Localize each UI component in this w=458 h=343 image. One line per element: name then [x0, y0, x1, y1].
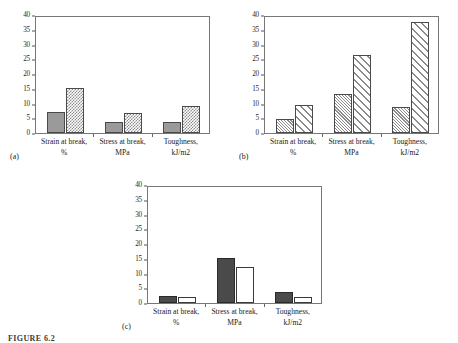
bar	[217, 258, 235, 303]
y-tick-label: 15	[23, 86, 30, 93]
x-tick-mark	[93, 134, 94, 137]
bar	[105, 122, 123, 133]
figure-caption: FIGURE 6.2	[8, 334, 55, 343]
bar	[392, 107, 410, 133]
y-tick-label: 5	[256, 116, 259, 123]
category-label-line2: kJ/m2	[373, 148, 447, 159]
y-tick-label: 5	[27, 116, 30, 123]
y-tick-label: 15	[135, 256, 142, 263]
x-tick-mark	[205, 304, 206, 307]
bar	[178, 297, 196, 303]
bar	[236, 267, 254, 303]
x-tick-mark	[264, 304, 265, 307]
y-axis-b: 0510152025303540	[237, 16, 263, 134]
y-tick-label: 40	[23, 12, 30, 19]
y-tick-label: 40	[135, 182, 142, 189]
bar	[334, 94, 352, 133]
chart-panel-a: 0510152025303540 Strain at break,%Stress…	[0, 2, 229, 174]
panel-letter-b: (b)	[239, 152, 248, 161]
category-label-line1: Stress at break,	[99, 137, 145, 146]
y-tick-label: 30	[135, 212, 142, 219]
category-label-line1: Toughness,	[393, 137, 427, 146]
bar	[47, 112, 65, 133]
bar	[159, 296, 177, 303]
category-label: Toughness,kJ/m2	[144, 137, 218, 158]
category-label-line1: Stress at break,	[211, 307, 257, 316]
category-label-line1: Stress at break,	[328, 137, 374, 146]
y-tick-label: 20	[23, 71, 30, 78]
bar	[295, 105, 313, 133]
bar	[124, 113, 142, 133]
panel-letter-c: (c)	[122, 322, 131, 331]
plot-area-a	[35, 16, 210, 134]
bars-container-a	[36, 17, 209, 133]
chart-panel-b: 0510152025303540 Strain at break,%Stress…	[229, 2, 458, 174]
bar	[276, 119, 294, 133]
y-tick-label: 25	[252, 57, 259, 64]
category-label-line1: Strain at break,	[153, 307, 199, 316]
bar	[353, 55, 371, 133]
plot-area-b	[264, 16, 439, 134]
bar	[411, 22, 429, 134]
x-tick-mark	[152, 134, 153, 137]
bar	[163, 122, 181, 134]
category-labels-a: Strain at break,%Stress at break,MPaToug…	[18, 137, 226, 165]
y-tick-label: 40	[252, 12, 259, 19]
y-tick-label: 20	[252, 71, 259, 78]
category-labels-c: Strain at break,%Stress at break,MPaToug…	[130, 307, 338, 335]
bars-container-c	[148, 187, 321, 303]
y-tick-label: 25	[135, 227, 142, 234]
bar	[294, 297, 312, 303]
y-tick-label: 35	[252, 27, 259, 34]
y-tick-label: 25	[23, 57, 30, 64]
category-label-line1: Toughness,	[276, 307, 310, 316]
bar	[275, 292, 293, 303]
category-label-line1: Strain at break,	[270, 137, 316, 146]
y-tick-label: 20	[135, 241, 142, 248]
category-label-line2: kJ/m2	[256, 318, 330, 329]
y-tick-label: 35	[23, 27, 30, 34]
y-axis-c: 0510152025303540	[120, 186, 146, 304]
x-tick-mark	[322, 134, 323, 137]
plot-area-c	[147, 186, 322, 304]
bars-container-b	[265, 17, 438, 133]
panel-letter-a: (a)	[10, 152, 19, 161]
category-labels-b: Strain at break,%Stress at break,MPaToug…	[247, 137, 455, 165]
category-label: Toughness,kJ/m2	[373, 137, 447, 158]
y-tick-label: 15	[252, 86, 259, 93]
category-label: Toughness,kJ/m2	[256, 307, 330, 328]
bar	[182, 106, 200, 133]
y-tick-label: 30	[23, 42, 30, 49]
category-label-line1: Toughness,	[164, 137, 198, 146]
category-label-line2: kJ/m2	[144, 148, 218, 159]
bar	[66, 88, 84, 133]
y-tick-label: 10	[135, 271, 142, 278]
x-tick-mark	[381, 134, 382, 137]
y-tick-label: 30	[252, 42, 259, 49]
y-axis-a: 0510152025303540	[8, 16, 34, 134]
category-label-line1: Strain at break,	[41, 137, 87, 146]
y-tick-label: 35	[135, 197, 142, 204]
chart-panel-c: 0510152025303540 Strain at break,%Stress…	[112, 172, 341, 338]
y-tick-label: 10	[252, 101, 259, 108]
y-tick-label: 10	[23, 101, 30, 108]
y-tick-label: 5	[139, 286, 142, 293]
